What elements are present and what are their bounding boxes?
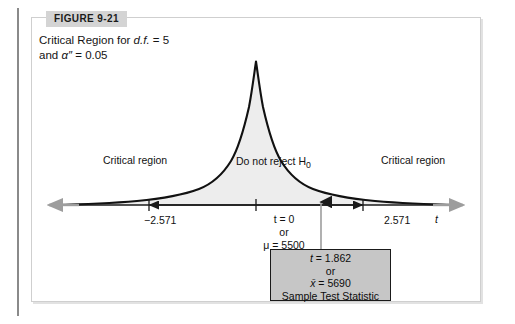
- null-hypothesis-subscript: 0: [306, 160, 311, 170]
- t-curve: [53, 62, 459, 206]
- axis-variable-label: t: [435, 213, 438, 225]
- center-t-number: = 0: [277, 213, 295, 225]
- callout-xbar-value: x̄ = 5690: [271, 277, 390, 290]
- center-axis-annotation: t = 0 or μ = 5500: [229, 213, 339, 252]
- callout-xbar-number: = 5690: [315, 277, 350, 289]
- critical-value-right-label: 2.571: [384, 214, 410, 226]
- callout-caption: Sample Test Statistic: [271, 290, 390, 303]
- t-distribution-plot: Critical region Critical region Do not r…: [31, 17, 481, 302]
- callout-or-text: or: [271, 265, 390, 278]
- callout-t-value: t = 1.862: [271, 252, 390, 265]
- critical-region-right-label: Critical region: [381, 154, 445, 166]
- center-or-text: or: [229, 226, 339, 239]
- center-t-value: t = 0: [229, 213, 339, 226]
- do-not-reject-text: Do not reject: [236, 155, 298, 167]
- do-not-reject-label: Do not reject H0: [236, 155, 311, 170]
- critical-region-left-label: Critical region: [103, 154, 167, 166]
- sample-test-statistic-callout: t = 1.862 or x̄ = 5690 Sample Test Stati…: [270, 249, 391, 301]
- null-hypothesis-symbol: H: [298, 155, 306, 167]
- page-edge-rule: [17, 8, 19, 316]
- callout-t-number: = 1.862: [313, 252, 351, 264]
- critical-value-left-label: −2.571: [144, 214, 176, 226]
